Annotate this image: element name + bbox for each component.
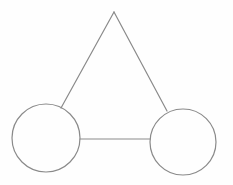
right-circle-node [150, 109, 216, 175]
triangle-circles-diagram [0, 0, 233, 185]
triangle-right-edge [114, 12, 167, 111]
diagram-canvas [0, 0, 233, 185]
triangle-left-edge [61, 12, 114, 108]
left-circle-node [12, 104, 80, 172]
